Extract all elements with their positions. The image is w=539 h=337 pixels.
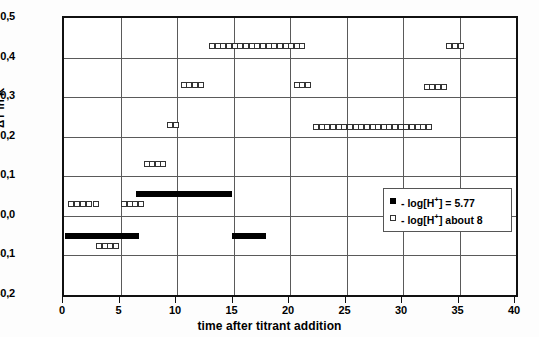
x-tick-mark [458, 297, 459, 303]
y-tick-label: 0,0 [0, 208, 15, 220]
y-tick-label: 0,4 [0, 50, 15, 62]
x-tick-mark [288, 297, 289, 303]
plot-frame [62, 16, 518, 297]
y-tick-label: 0,3 [0, 89, 15, 101]
gridline-vertical [234, 18, 235, 295]
x-tick-mark [401, 297, 402, 303]
gridline-vertical [290, 18, 291, 295]
data-point-series-1 [74, 201, 80, 207]
data-point-series-0 [226, 191, 232, 197]
x-tick-label: 30 [395, 304, 407, 316]
x-tick-mark [514, 297, 515, 303]
data-point-series-1 [160, 161, 166, 167]
data-point-series-0 [122, 233, 128, 239]
x-tick-mark [62, 297, 63, 303]
open-square-icon [390, 215, 396, 221]
x-tick-label: 5 [115, 304, 121, 316]
x-tick-mark [345, 297, 346, 303]
x-tick-label: 0 [59, 304, 65, 316]
data-point-series-1 [138, 201, 144, 207]
x-tick-label: 35 [451, 304, 463, 316]
chart-root: ΔT in K time after titrant addition - lo… [0, 0, 539, 337]
x-tick-label: 40 [508, 304, 520, 316]
x-tick-label: 20 [282, 304, 294, 316]
data-point-series-1 [426, 124, 432, 130]
y-tick-label: -0,1 [0, 247, 15, 259]
legend-label-ph-577: - log[H+] = 5.77 [401, 193, 475, 210]
legend-label-ph-8: - log[H+] about 8 [401, 210, 483, 227]
legend-item-ph-577: - log[H+] = 5.77 [390, 193, 505, 210]
plot-area [64, 18, 516, 295]
data-point-series-1 [458, 43, 464, 49]
x-tick-label: 10 [169, 304, 181, 316]
data-point-series-1 [80, 201, 86, 207]
chart-legend: - log[H+] = 5.77 - log[H+] about 8 [383, 188, 512, 232]
legend-item-ph-8: - log[H+] about 8 [390, 210, 505, 227]
data-point-series-1 [198, 82, 204, 88]
data-point-series-1 [305, 82, 311, 88]
data-point-series-1 [93, 201, 99, 207]
gridline-vertical [121, 18, 122, 295]
data-point-series-0 [133, 233, 139, 239]
data-point-series-1 [86, 201, 92, 207]
x-tick-mark [232, 297, 233, 303]
y-tick-label: 0,5 [0, 10, 15, 22]
data-point-series-1 [173, 122, 179, 128]
data-point-series-1 [113, 243, 119, 249]
x-tick-mark [119, 297, 120, 303]
gridline-vertical [177, 18, 178, 295]
gridline-vertical [347, 18, 348, 295]
x-tick-mark [175, 297, 176, 303]
x-axis-title: time after titrant addition [0, 319, 539, 333]
y-tick-label: 0,2 [0, 129, 15, 141]
data-point-series-1 [299, 43, 305, 49]
filled-square-icon [390, 198, 396, 204]
gridline-vertical [460, 18, 461, 295]
data-point-series-1 [68, 201, 74, 207]
gridline-vertical [403, 18, 404, 295]
x-tick-label: 15 [225, 304, 237, 316]
y-tick-label: 0,1 [0, 168, 15, 180]
data-point-series-0 [260, 233, 266, 239]
y-tick-label: -0,2 [0, 287, 15, 299]
x-tick-label: 25 [338, 304, 350, 316]
data-point-series-1 [441, 84, 447, 90]
